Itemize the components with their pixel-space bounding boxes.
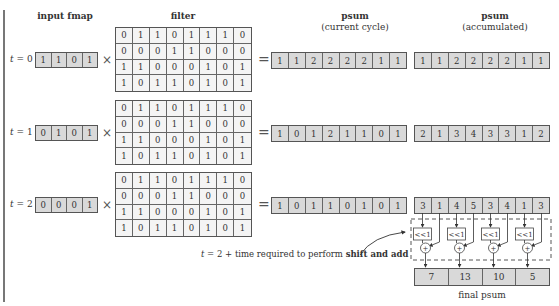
final-psum-cell: 10 [483,269,517,285]
final-psum-vector: 713105 [414,268,550,286]
shift-label: <<1 [482,231,498,239]
final-psum-label: final psum [440,290,524,301]
annotation-bold: shift and add [346,249,409,259]
annotation-prefix: = 2 + time required to perform [204,249,345,259]
addend-to-adder-wire [498,242,508,246]
adder-plus: + [491,245,497,253]
final-psum-cell: 7 [415,269,449,285]
adder-plus: + [525,245,531,253]
adder-plus: + [457,245,463,253]
shift-label: <<1 [516,231,532,239]
final-psum-cell: 13 [449,269,483,285]
adder-plus: + [423,245,429,253]
addend-to-adder-wire [430,242,440,246]
shift-label: <<1 [414,231,430,239]
addend-to-adder-wire [532,242,542,246]
shift-label: <<1 [448,231,464,239]
addend-to-adder-wire [464,242,474,246]
final-psum-cell: 5 [516,269,549,285]
shift-add-annotation: t = 2 + time required to perform shift a… [201,249,408,259]
shift-add-diagram: <<1+<<1+<<1+<<1+ [0,0,559,306]
